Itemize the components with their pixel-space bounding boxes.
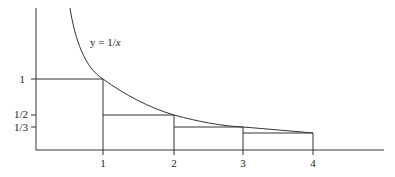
y-tick-label-third: 1/3 [14,121,29,133]
rectangle-0-1 [36,79,103,155]
x-tick-label-1: 1 [100,157,106,169]
hyperbola-step-diagram: 1 1/2 1/3 1 2 3 4 y = 1/x [0,0,395,177]
rectangle-3-4 [243,133,313,155]
x-tick-label-2: 2 [171,157,177,169]
x-tick-label-3: 3 [240,157,246,169]
hyperbola-curve [70,8,313,133]
x-tick-label-4: 4 [310,157,316,169]
rectangle-1-2 [103,115,174,155]
rectangle-2-3 [174,127,243,155]
diagram-canvas: 1 1/2 1/3 1 2 3 4 y = 1/x [0,0,395,177]
y-tick-label-1: 1 [20,73,26,85]
y-tick-label-half: 1/2 [14,108,28,120]
curve-label: y = 1/x [90,36,121,48]
